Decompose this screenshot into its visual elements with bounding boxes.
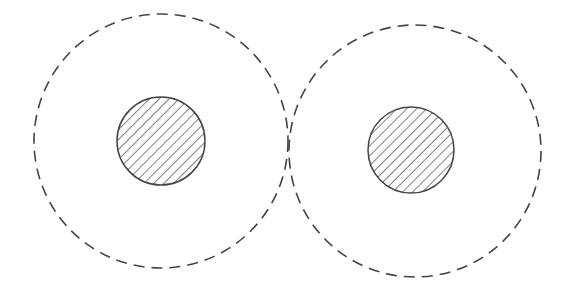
hatched-inner-circle bbox=[368, 107, 454, 193]
hatched-inner-circle bbox=[117, 97, 205, 185]
right-unit bbox=[289, 25, 541, 277]
diagram-units bbox=[34, 14, 541, 277]
diagram-svg bbox=[0, 0, 574, 289]
left-unit bbox=[34, 14, 288, 268]
diagram-canvas bbox=[0, 0, 574, 289]
